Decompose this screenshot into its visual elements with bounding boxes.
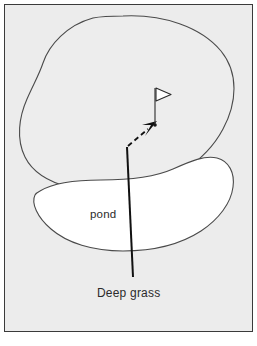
diagram-frame: pond Deep grass (4, 4, 253, 332)
flag-base-icon (153, 123, 157, 127)
deep-grass-label: Deep grass (97, 286, 160, 300)
figure-root: pond Deep grass (0, 0, 257, 346)
golf-hole-map (5, 5, 251, 330)
pond-label: pond (90, 208, 116, 220)
caption-partial (0, 336, 257, 346)
